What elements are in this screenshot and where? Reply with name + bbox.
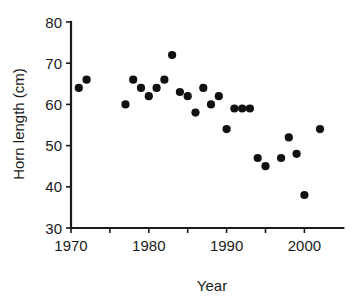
- x-tick-label: 2000: [288, 237, 321, 254]
- data-point: [254, 154, 262, 162]
- data-point: [160, 76, 168, 84]
- y-tick-label: 30: [45, 220, 62, 237]
- x-tick-label: 1970: [54, 237, 87, 254]
- data-point: [207, 100, 215, 108]
- data-point: [277, 154, 285, 162]
- data-point: [145, 92, 153, 100]
- data-point: [246, 104, 254, 112]
- data-point: [300, 191, 308, 199]
- x-tick-label: 1990: [210, 237, 243, 254]
- x-tick-label: 1980: [132, 237, 165, 254]
- data-point: [316, 125, 324, 133]
- data-point: [199, 84, 207, 92]
- data-point: [293, 150, 301, 158]
- data-point: [83, 76, 91, 84]
- data-point: [191, 109, 199, 117]
- x-axis-tick-labels: 1970198019902000: [54, 237, 321, 254]
- data-point: [215, 92, 223, 100]
- data-point: [230, 104, 238, 112]
- y-tick-label: 50: [45, 137, 62, 154]
- data-point: [261, 162, 269, 170]
- y-axis-title: Horn length (cm): [10, 68, 27, 180]
- data-point: [223, 125, 231, 133]
- data-point: [184, 92, 192, 100]
- y-tick-label: 60: [45, 96, 62, 113]
- data-point: [121, 100, 129, 108]
- y-tick-label: 70: [45, 55, 62, 72]
- data-point: [137, 84, 145, 92]
- y-tick-label: 40: [45, 178, 62, 195]
- x-axis-title: Year: [197, 277, 227, 294]
- data-point: [75, 84, 83, 92]
- plot-area: 304050607080 1970198019902000 Year Horn …: [0, 0, 358, 300]
- data-point: [176, 88, 184, 96]
- data-point: [168, 51, 176, 59]
- data-point: [129, 76, 137, 84]
- data-point: [238, 104, 246, 112]
- data-points: [75, 51, 324, 199]
- y-axis-tick-labels: 304050607080: [45, 14, 62, 237]
- scatter-chart: 304050607080 1970198019902000 Year Horn …: [0, 0, 358, 300]
- y-tick-label: 80: [45, 14, 62, 31]
- data-point: [153, 84, 161, 92]
- data-point: [285, 133, 293, 141]
